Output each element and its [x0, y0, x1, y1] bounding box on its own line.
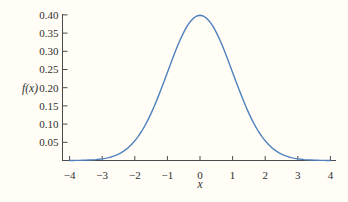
- x-axis-title: x: [196, 178, 203, 190]
- y-axis-title: f(x): [22, 82, 38, 95]
- y-tick-label: 0.10: [39, 118, 59, 130]
- y-tick-label: 0.25: [39, 63, 59, 75]
- normal-distribution-chart: −4−3−2−101234 0.050.100.150.200.250.300.…: [0, 0, 348, 202]
- x-tick-label: −4: [64, 169, 76, 181]
- x-tick-label: 4: [328, 169, 334, 181]
- y-tick-label: 0.40: [39, 9, 59, 21]
- y-tick-label: 0.05: [39, 136, 59, 148]
- y-tick-label: 0.20: [39, 82, 59, 94]
- x-tick-label: 2: [262, 169, 268, 181]
- y-axis-tick-labels: 0.050.100.150.200.250.300.350.40: [39, 9, 59, 148]
- x-tick-label: 3: [295, 169, 301, 181]
- x-tick-label: −3: [96, 169, 108, 181]
- y-tick-label: 0.35: [39, 27, 59, 39]
- y-tick-label: 0.30: [39, 45, 59, 57]
- y-tick-label: 0.15: [39, 100, 59, 112]
- y-axis-ticks: [63, 15, 68, 142]
- x-tick-label: −1: [162, 169, 174, 181]
- normal-distribution-figure: −4−3−2−101234 0.050.100.150.200.250.300.…: [0, 0, 348, 202]
- normal-pdf-curve: [70, 15, 331, 160]
- x-tick-label: 1: [230, 169, 236, 181]
- x-tick-label: −2: [129, 169, 141, 181]
